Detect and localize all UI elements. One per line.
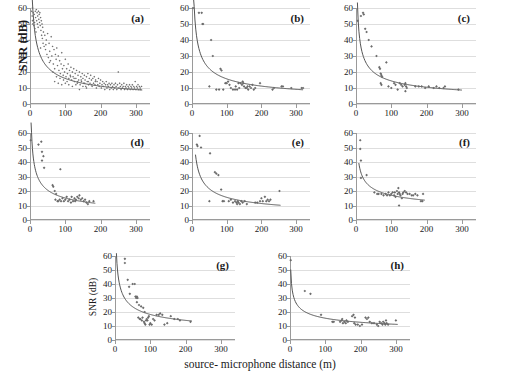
x-tick-label-100: 100	[220, 225, 234, 234]
data-point	[124, 257, 127, 260]
y-tick-label-60: 60	[336, 4, 353, 13]
data-point	[93, 82, 95, 84]
data-point	[282, 85, 285, 88]
data-point	[63, 79, 65, 81]
data-point	[422, 193, 425, 196]
data-point	[45, 49, 47, 51]
data-point	[356, 323, 359, 326]
data-point	[373, 191, 376, 194]
data-point	[85, 85, 87, 87]
y-tick-label-30: 30	[172, 172, 189, 181]
data-point	[42, 42, 44, 44]
data-point	[259, 82, 262, 85]
x-tick-label-100: 100	[385, 109, 399, 118]
y-tick-label-30: 30	[10, 172, 27, 181]
data-point	[83, 74, 85, 76]
data-point	[173, 318, 176, 321]
figure-panel-grid: SNR (dB) source- microphone distance (m)…	[0, 0, 520, 386]
data-point	[375, 55, 378, 58]
data-point	[417, 85, 420, 88]
data-point	[70, 66, 72, 68]
data-point	[91, 85, 93, 87]
data-point	[57, 55, 59, 57]
y-tick-0	[353, 104, 356, 105]
data-point	[169, 315, 172, 318]
chart-panel-g: 01020304050600100200300(g)SNR (dB)	[115, 256, 235, 340]
x-tick-label-0: 0	[288, 345, 293, 354]
data-point	[41, 23, 43, 25]
data-point	[65, 76, 67, 78]
data-point	[200, 11, 203, 14]
data-point	[111, 82, 113, 84]
x-tick-label-300: 300	[455, 109, 469, 118]
data-point	[100, 79, 102, 81]
data-point	[404, 90, 407, 93]
data-point	[230, 87, 233, 90]
data-point	[360, 177, 363, 180]
fit-curve	[193, 0, 303, 90]
data-point	[90, 79, 92, 81]
chart-panel-c: 01020304050600100200300(c)	[356, 8, 476, 104]
data-point	[251, 83, 254, 86]
data-point	[39, 21, 41, 23]
data-point	[55, 58, 57, 60]
data-point	[387, 191, 390, 194]
data-point	[139, 87, 141, 89]
data-point	[211, 55, 214, 58]
y-tick-label-20: 20	[10, 68, 27, 77]
y-tick-label-30: 30	[270, 294, 287, 303]
y-tick-label-50: 50	[172, 20, 189, 29]
y-tick-label-10: 10	[10, 201, 27, 210]
panel-label-d: (d)	[131, 136, 144, 148]
data-point	[49, 50, 51, 52]
y-tick-label-0: 0	[10, 100, 27, 109]
data-point	[62, 68, 64, 70]
data-point	[90, 74, 92, 76]
data-point	[36, 12, 38, 14]
y-tick-label-60: 60	[270, 252, 287, 261]
data-point	[390, 87, 393, 90]
data-point	[138, 85, 140, 87]
y-tick-label-50: 50	[10, 20, 27, 29]
data-point	[385, 61, 388, 64]
data-point	[373, 322, 376, 325]
chart-panel-f: 01020304050600100200300(f)	[356, 133, 476, 220]
data-point	[42, 26, 44, 28]
fit-curve	[357, 3, 461, 91]
chart-panel-a: 01020304050600100200300(a)	[30, 8, 150, 104]
data-point	[87, 73, 89, 75]
data-point	[54, 53, 56, 55]
data-point	[377, 193, 380, 196]
data-point	[61, 84, 63, 86]
data-point	[40, 29, 42, 31]
gridline-y-0	[290, 340, 410, 341]
data-point	[359, 325, 362, 328]
data-point	[208, 85, 211, 88]
data-point	[360, 15, 363, 18]
y-tick-label-10: 10	[336, 84, 353, 93]
data-point	[309, 292, 312, 295]
data-point	[74, 73, 76, 75]
data-point	[228, 83, 231, 86]
data-point	[412, 194, 415, 197]
data-point	[59, 73, 61, 75]
data-point	[223, 200, 226, 203]
data-point	[131, 84, 133, 86]
data-point	[117, 84, 119, 86]
data-point	[59, 168, 62, 171]
data-point	[41, 151, 44, 154]
data-point	[393, 191, 396, 194]
data-point	[38, 10, 40, 12]
data-point	[82, 77, 84, 79]
data-point	[41, 159, 44, 162]
data-point	[396, 88, 399, 91]
data-point	[86, 87, 88, 89]
gridline-y-0	[356, 104, 476, 105]
data-point	[56, 76, 58, 78]
data-point	[385, 319, 388, 322]
data-point	[138, 304, 141, 307]
data-point	[134, 81, 136, 83]
data-point	[227, 200, 230, 203]
y-tick-label-10: 10	[172, 84, 189, 93]
data-point	[78, 194, 81, 197]
